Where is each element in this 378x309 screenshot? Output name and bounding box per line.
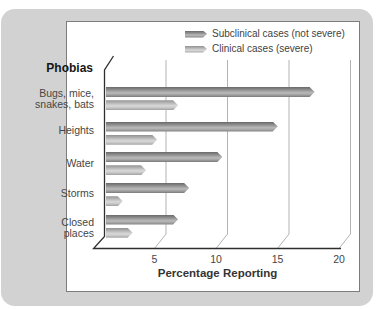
bar-subclinical-1 [106, 122, 278, 132]
category-label-2: Water [12, 157, 94, 168]
category-label-0: Bugs, mice, snakes, bats [12, 88, 94, 109]
legend: Subclinical cases (not severe) Clinical … [185, 28, 345, 55]
subclinical-swatch-icon [185, 31, 207, 38]
legend-label-clinical: Clinical cases (severe) [212, 43, 313, 55]
bar-clinical-1 [106, 135, 158, 145]
legend-item-clinical: Clinical cases (severe) [185, 43, 345, 55]
figure-page: Bugs, mice, snakes, batsHeightsWaterStor… [0, 0, 378, 309]
bar-subclinical-2 [106, 152, 223, 162]
bar-clinical-0 [106, 100, 179, 110]
legend-label-subclinical: Subclinical cases (not severe) [212, 28, 345, 40]
bar-subclinical-3 [106, 183, 190, 193]
x-tick-label-20: 20 [324, 253, 354, 265]
clinical-swatch-icon [185, 46, 207, 53]
category-label-1: Heights [12, 125, 94, 136]
x-tick-label-10: 10 [201, 253, 231, 265]
category-label-4: Closed places [12, 217, 94, 238]
bar-clinical-2 [106, 165, 147, 175]
bar-clinical-3 [106, 196, 123, 206]
bar-clinical-4 [106, 228, 133, 238]
bar-subclinical-4 [106, 215, 179, 225]
bar-subclinical-0 [106, 87, 315, 97]
x-tick-label-15: 15 [263, 253, 293, 265]
legend-item-subclinical: Subclinical cases (not severe) [185, 28, 345, 40]
x-axis-title: Percentage Reporting [93, 267, 342, 279]
category-label-3: Storms [12, 188, 94, 199]
y-axis-heading: Phobias [12, 61, 93, 75]
x-tick-label-5: 5 [140, 253, 170, 265]
